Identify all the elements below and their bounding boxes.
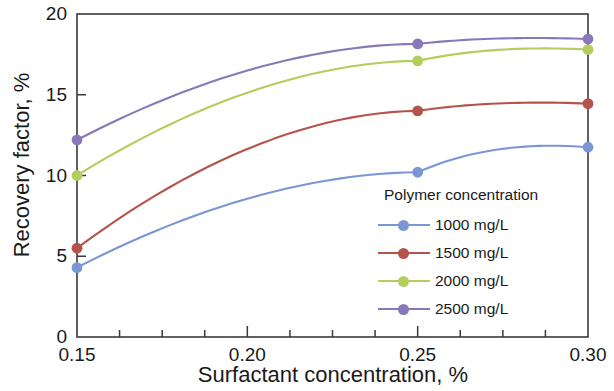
x-tick-label-030: 0.30 [553, 344, 614, 366]
data-point [72, 135, 83, 146]
legend-item-2500[interactable]: 2500 mg/L [378, 295, 573, 323]
legend-label-2000: 2000 mg/L [430, 272, 508, 290]
y-tick-label-5: 5 [27, 245, 67, 267]
series-2000-mg-l [72, 44, 594, 181]
legend-item-1500[interactable]: 1500 mg/L [378, 239, 573, 267]
legend: Polymer concentration 1000 mg/L 1500 mg/… [378, 186, 573, 323]
x-tick-label-015: 0.15 [42, 344, 112, 366]
data-point [583, 44, 594, 55]
data-point [412, 38, 423, 49]
y-tick-label-15: 15 [27, 84, 67, 106]
legend-swatch-icon-1500 [378, 246, 430, 260]
chart-figure: Recovery factor, % Surfactant concentrat… [0, 0, 614, 391]
legend-item-2000[interactable]: 2000 mg/L [378, 267, 573, 295]
data-point [583, 98, 594, 109]
series-line [77, 48, 588, 175]
data-point [412, 55, 423, 66]
data-point [72, 170, 83, 181]
series-2500-mg-l [72, 34, 594, 146]
legend-swatch-icon-1000 [378, 218, 430, 232]
data-point [412, 167, 423, 178]
legend-swatch-icon-2500 [378, 302, 430, 316]
legend-title: Polymer concentration [378, 186, 573, 204]
x-tick-label-025: 0.25 [383, 344, 453, 366]
legend-label-1500: 1500 mg/L [430, 244, 508, 262]
data-point [412, 106, 423, 117]
y-tick-label-20: 20 [27, 3, 67, 25]
x-axis-title: Surfactant concentration, % [77, 362, 589, 388]
legend-swatch-icon-2000 [378, 274, 430, 288]
legend-label-2500: 2500 mg/L [430, 300, 508, 318]
x-tick-label-020: 0.20 [212, 344, 282, 366]
data-point [72, 262, 83, 273]
y-tick-label-10: 10 [27, 165, 67, 187]
series-line [77, 38, 588, 140]
legend-label-1000: 1000 mg/L [430, 216, 508, 234]
data-point [583, 142, 594, 153]
data-point [583, 34, 594, 45]
data-point [72, 243, 83, 254]
legend-item-1000[interactable]: 1000 mg/L [378, 211, 573, 239]
